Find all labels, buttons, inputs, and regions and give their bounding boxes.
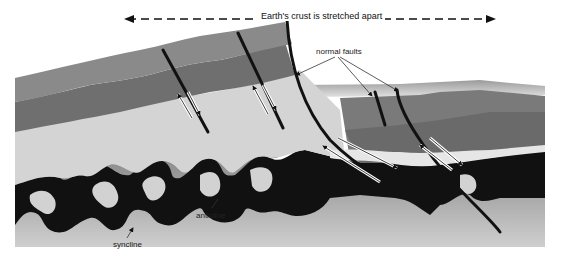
arrow-left-icon: [124, 15, 134, 23]
diagram-title: Earth's crust is stretched apart: [258, 11, 385, 21]
arrow-right-icon: [486, 15, 496, 23]
anticline-label: anticline: [196, 211, 225, 220]
normal-faults-label: normal faults: [316, 47, 362, 56]
crust-stretching-diagram: [0, 0, 562, 266]
syncline-label: syncline: [113, 240, 142, 249]
